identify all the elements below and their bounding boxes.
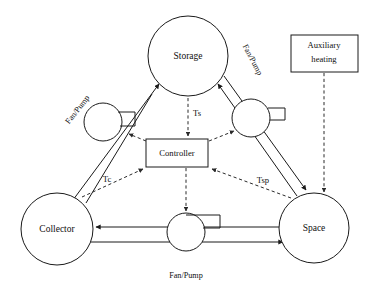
pump-body-icon — [167, 213, 205, 251]
pump-tab-icon — [268, 108, 285, 120]
pump-collector-space-label: Fan/Pump — [169, 271, 203, 280]
diagram-canvas: Fan/Pump Fan/Pump Fan/Pump Storage Colle… — [0, 0, 373, 293]
signal-ts: Ts — [188, 98, 202, 136]
auxiliary-heating-label-line1: Auxiliary — [308, 40, 342, 50]
signal-line-controller-left-pump — [129, 134, 146, 141]
storage-label: Storage — [173, 51, 202, 61]
pump-collector-storage[interactable]: Fan/Pump — [64, 94, 135, 141]
signal-label-tsp: Tsp — [257, 175, 269, 185]
signal-controller-to-right-pump — [209, 131, 234, 141]
node-space[interactable]: Space — [279, 193, 349, 263]
signal-label-tc: Tc — [103, 174, 112, 184]
signal-controller-to-left-pump — [129, 134, 146, 141]
pump-storage-space[interactable]: Fan/Pump — [232, 43, 285, 137]
signal-line-tsp — [212, 169, 291, 198]
node-collector[interactable]: Collector — [21, 193, 93, 265]
space-label: Space — [303, 223, 326, 233]
flow-storage-to-space — [224, 76, 306, 190]
signal-tsp: Tsp — [212, 169, 291, 198]
signal-line-controller-right-pump — [209, 131, 234, 141]
auxiliary-heating-box[interactable]: Auxiliary heating — [291, 35, 358, 72]
auxiliary-heating-label-line2: heating — [311, 54, 337, 64]
pump-body-icon — [84, 103, 122, 141]
signal-tc: Tc — [82, 169, 143, 197]
pump-collector-space[interactable]: Fan/Pump — [167, 213, 220, 280]
controller-box[interactable]: Controller — [146, 139, 208, 167]
pump-body-icon — [232, 99, 270, 137]
pump-storage-space-label: Fan/Pump — [241, 43, 265, 77]
node-storage[interactable]: Storage — [148, 16, 228, 96]
signal-line-tc — [82, 169, 143, 197]
collector-label: Collector — [39, 224, 75, 234]
signal-label-ts: Ts — [193, 108, 202, 118]
controller-label: Controller — [159, 148, 194, 158]
system-diagram: Fan/Pump Fan/Pump Fan/Pump Storage Colle… — [0, 0, 373, 293]
